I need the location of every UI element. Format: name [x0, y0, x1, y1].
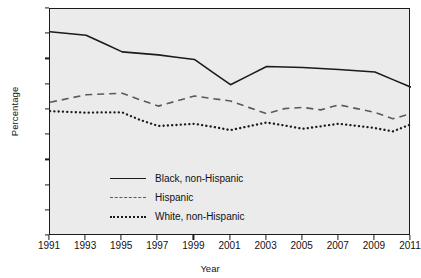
x-axis-title: Year: [0, 263, 420, 274]
series-line: [50, 32, 411, 87]
legend-swatch-dashed-line-icon: [110, 193, 146, 203]
legend-swatch-solid-line-icon: [110, 174, 146, 184]
x-axis-tick-label: 2007: [327, 240, 349, 251]
x-axis-tick-label: 1991: [38, 240, 60, 251]
series-line: [50, 93, 411, 118]
legend-item-black-non-hispanic: Black, non-Hispanic: [110, 169, 244, 188]
x-axis-tick-label: 2005: [291, 240, 313, 251]
x-axis-tick-label: 2009: [363, 240, 385, 251]
x-axis-tick-label: 2001: [218, 240, 240, 251]
x-axis-tick-label: 2003: [254, 240, 276, 251]
y-axis-title: Percentage: [9, 72, 20, 152]
legend-swatch-dotted-line-icon: [110, 212, 146, 222]
x-axis-tick-label: 2011: [399, 240, 421, 251]
legend-label: White, non-Hispanic: [155, 211, 244, 222]
series-line: [50, 111, 411, 131]
legend-label: Hispanic: [155, 192, 193, 203]
legend-item-hispanic: Hispanic: [110, 188, 244, 207]
plot-area: Black, non-Hispanic Hispanic White, non-…: [49, 8, 410, 235]
x-axis-tick-label: 1999: [182, 240, 204, 251]
legend-item-white-non-hispanic: White, non-Hispanic: [110, 207, 244, 226]
x-axis-tick-label: 1993: [74, 240, 96, 251]
legend: Black, non-Hispanic Hispanic White, non-…: [110, 169, 244, 226]
x-axis-tick-label: 1995: [110, 240, 132, 251]
x-axis-tick-label: 1997: [146, 240, 168, 251]
legend-label: Black, non-Hispanic: [155, 173, 243, 184]
